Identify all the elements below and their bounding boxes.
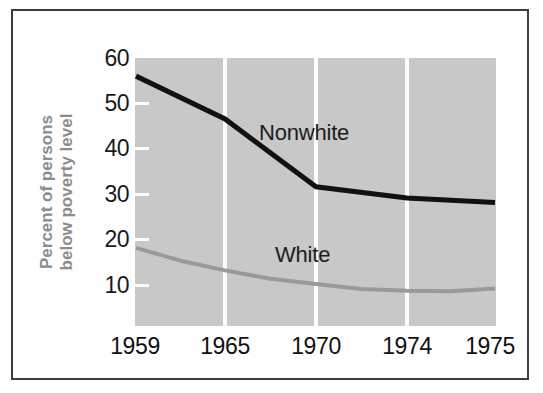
x-tick-label-1970: 1970: [291, 335, 341, 358]
plot-svg: [135, 58, 496, 326]
x-tick-label-1965: 1965: [200, 335, 250, 358]
series-annotation-nonwhite: Nonwhite: [259, 122, 349, 144]
x-tick-label-1959: 1959: [110, 335, 160, 358]
chart-figure: Percent of persons below poverty level 6…: [0, 0, 543, 393]
y-tick-label-40: 40: [85, 137, 129, 160]
y-tick-label-50: 50: [85, 92, 129, 115]
plot-area: Nonwhite White: [135, 58, 496, 326]
x-tick-label-1974: 1974: [382, 335, 432, 358]
series-annotation-white: White: [275, 244, 330, 266]
y-tick-label-10: 10: [85, 274, 129, 297]
x-tick-label-1975: 1975: [465, 335, 515, 358]
y-tick-label-60: 60: [85, 47, 129, 70]
y-axis-title-line-1: Percent of persons: [37, 63, 57, 321]
y-tick-label-20: 20: [85, 228, 129, 251]
figure-border: Percent of persons below poverty level 6…: [11, 9, 529, 380]
x-axis-tick-labels: 1959 1965 1970 1974 1975: [13, 335, 543, 369]
y-tick-label-30: 30: [85, 183, 129, 206]
